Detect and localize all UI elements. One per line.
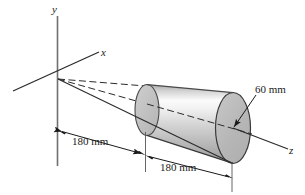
- technical-figure: y x z 60 mm 180 mm 180 mm: [0, 0, 305, 195]
- y-axis-label: y: [51, 3, 57, 15]
- dimension-label-180mm-second: 180 mm: [160, 161, 197, 173]
- dimension-2-arrow-left: [145, 155, 153, 159]
- x-axis: [13, 52, 99, 91]
- dimension-label-180mm-first: 180 mm: [72, 135, 109, 147]
- dimension-label-60mm: 60 mm: [255, 83, 286, 95]
- x-axis-label: x: [100, 46, 106, 58]
- dimension-1-arrow-left: [58, 130, 66, 134]
- frustum-small-end-cap: [135, 85, 159, 136]
- z-axis-label: z: [288, 144, 294, 156]
- figure-canvas: y x z 60 mm 180 mm 180 mm: [0, 0, 305, 195]
